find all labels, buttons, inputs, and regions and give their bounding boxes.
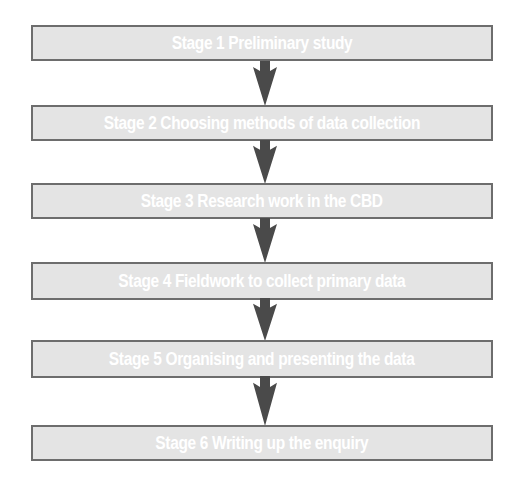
down-arrow-icon bbox=[250, 218, 280, 263]
stage-4-box: Stage 4 Fieldwork to collect primary dat… bbox=[31, 262, 493, 300]
down-arrow-icon bbox=[250, 140, 280, 184]
stage-1-box: Stage 1 Preliminary study bbox=[31, 25, 493, 61]
stage-5-box: Stage 5 Organising and presenting the da… bbox=[31, 340, 493, 378]
stage-3-label: Stage 3 Research work in the CBD bbox=[141, 191, 383, 212]
stage-4-label: Stage 4 Fieldwork to collect primary dat… bbox=[119, 271, 406, 292]
stage-2-label: Stage 2 Choosing methods of data collect… bbox=[104, 113, 420, 134]
stage-6-label: Stage 6 Writing up the enquiry bbox=[155, 433, 368, 454]
stage-1-label: Stage 1 Preliminary study bbox=[172, 33, 353, 54]
stage-3-box: Stage 3 Research work in the CBD bbox=[31, 183, 493, 219]
stage-5-label: Stage 5 Organising and presenting the da… bbox=[109, 349, 415, 370]
down-arrow-icon bbox=[250, 61, 280, 106]
enquiry-stages-flowchart: Stage 1 Preliminary study Stage 2 Choosi… bbox=[0, 0, 524, 486]
stage-2-box: Stage 2 Choosing methods of data collect… bbox=[31, 105, 493, 141]
down-arrow-icon bbox=[250, 298, 280, 341]
stage-6-box: Stage 6 Writing up the enquiry bbox=[31, 425, 493, 461]
down-arrow-icon bbox=[250, 376, 280, 426]
